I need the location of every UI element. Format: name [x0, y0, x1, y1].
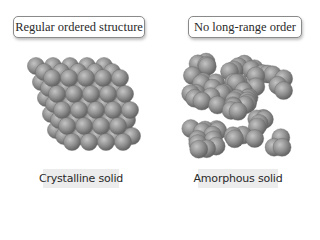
crystalline-lattice-graphic	[27, 57, 140, 150]
caption-text: Crystalline solid	[39, 172, 123, 185]
crystalline-solid-caption: Crystalline solid	[43, 169, 119, 188]
amorphous-structure-graphic	[182, 53, 293, 158]
caption-text: Amorphous solid	[194, 172, 283, 185]
amorphous-solid-caption: Amorphous solid	[198, 169, 278, 188]
